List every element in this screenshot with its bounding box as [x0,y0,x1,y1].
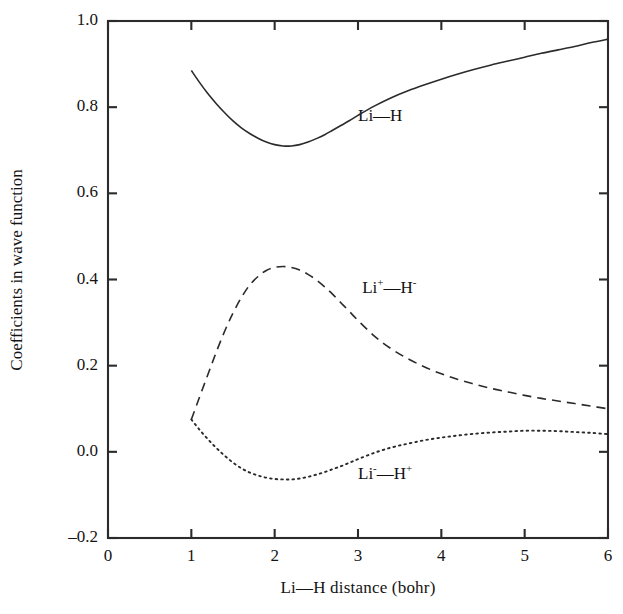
curve-2 [191,267,608,420]
plot-area [0,0,623,614]
axes-ticks [108,21,608,538]
axes-frame [108,21,608,538]
chart-figure: Coefficients in wave function Li—H dista… [0,0,623,614]
curve-3 [191,420,608,480]
curve-1 [191,39,608,146]
data-curves [191,39,608,479]
